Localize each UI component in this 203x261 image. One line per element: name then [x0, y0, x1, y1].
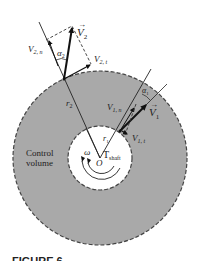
svg-text:→: →	[150, 100, 158, 109]
origin-label: O	[96, 158, 103, 168]
alpha2-label: α2	[57, 48, 65, 59]
figure-caption: FIGURE 6–34	[12, 254, 72, 261]
v2t-label: V2, t	[94, 54, 108, 65]
control-volume-label-line2: volume	[26, 158, 53, 168]
omega-label: ω	[84, 147, 90, 157]
v2n-label: V2, n	[28, 44, 43, 55]
control-volume-diagram: V2 → V2, n α2 V2, t r2 α1 V1, n V1 → V1,…	[0, 0, 203, 261]
svg-text:→: →	[78, 20, 86, 29]
control-volume-label-line1: Control	[26, 148, 54, 158]
